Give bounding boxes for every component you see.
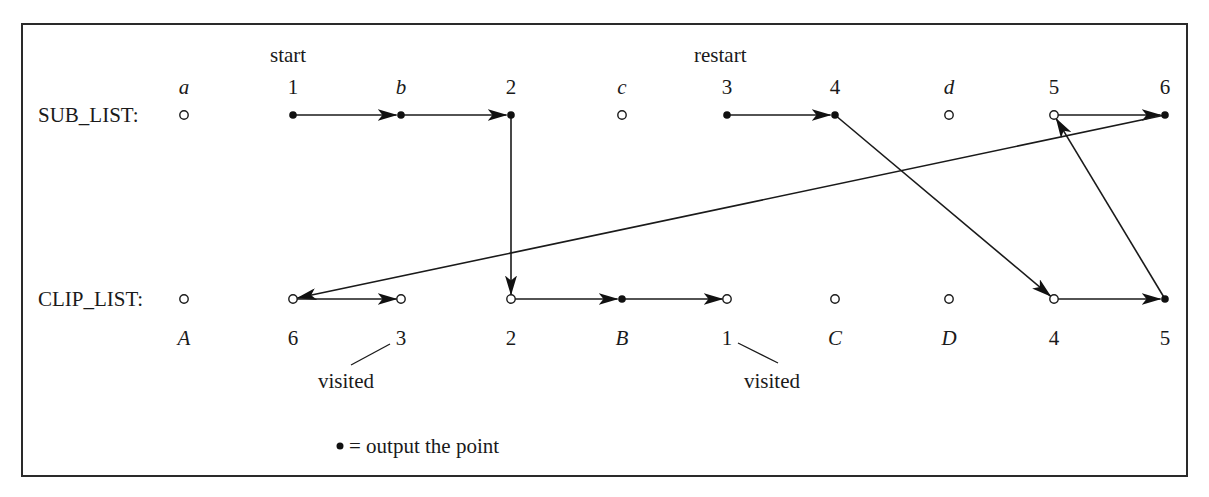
edges-layer (293, 115, 1165, 299)
open-point-icon (945, 295, 953, 303)
clip-list-nodes: A632B1CD45 (176, 295, 1171, 350)
start-annotation: start (270, 43, 306, 67)
legend-text: = output the point (349, 434, 499, 458)
sub-list-node-label: 3 (722, 75, 733, 99)
filled-point-icon (507, 111, 515, 119)
clip-list-node-label: D (940, 326, 956, 350)
open-point-icon (180, 111, 188, 119)
sub-list-node-label: 2 (506, 75, 517, 99)
clip-list-label: CLIP_LIST: (38, 287, 143, 311)
clipping-diagram: SUB_LIST: CLIP_LIST: start restart a1b2c… (0, 0, 1209, 497)
clip-list-node-label: 2 (506, 326, 517, 350)
open-point-icon (723, 295, 731, 303)
open-point-icon (618, 111, 626, 119)
sub-list-node-label: 1 (288, 75, 299, 99)
clip-list-node-label: 3 (396, 326, 407, 350)
open-point-icon (180, 295, 188, 303)
open-point-icon (1050, 295, 1058, 303)
open-point-icon (945, 111, 953, 119)
restart-annotation: restart (694, 43, 747, 67)
sub-list-node-label: 6 (1160, 75, 1171, 99)
visited-leader-1 (738, 343, 778, 363)
filled-point-icon (831, 111, 839, 119)
edge-s6-to-c6 (297, 115, 1165, 298)
clip-list-node-label: 5 (1160, 326, 1171, 350)
clip-list-node-label: B (616, 326, 629, 350)
filled-point-icon (723, 111, 731, 119)
visited-leader-3 (351, 344, 390, 365)
clip-list-node-label: A (176, 326, 191, 350)
clip-list-node-label: 4 (1049, 326, 1060, 350)
diagram-frame (22, 24, 1187, 476)
legend-filled-dot-icon (337, 443, 344, 450)
open-point-icon (397, 295, 405, 303)
sub-list-node-label: b (396, 75, 407, 99)
sub-list-node-label: 5 (1049, 75, 1060, 99)
edge-s4-to-c4 (835, 115, 1051, 296)
clip-list-node-label: 1 (722, 326, 733, 350)
filled-point-icon (397, 111, 405, 119)
sub-list-label: SUB_LIST: (38, 103, 138, 127)
open-point-icon (1050, 111, 1058, 119)
filled-point-icon (289, 111, 297, 119)
clip-list-node-label: 6 (288, 326, 299, 350)
sub-list-nodes: a1b2c34d56 (179, 75, 1171, 119)
sub-list-node-label: c (617, 75, 627, 99)
open-point-icon (289, 295, 297, 303)
visited-label-1: visited (744, 369, 800, 393)
edge-c5-to-s5 (1056, 119, 1165, 299)
sub-list-node-label: 4 (830, 75, 841, 99)
open-point-icon (507, 295, 515, 303)
visited-label-3: visited (318, 369, 374, 393)
filled-point-icon (618, 295, 626, 303)
filled-point-icon (1161, 111, 1169, 119)
sub-list-node-label: d (944, 75, 955, 99)
open-point-icon (831, 295, 839, 303)
sub-list-node-label: a (179, 75, 190, 99)
filled-point-icon (1161, 295, 1169, 303)
clip-list-node-label: C (828, 326, 843, 350)
